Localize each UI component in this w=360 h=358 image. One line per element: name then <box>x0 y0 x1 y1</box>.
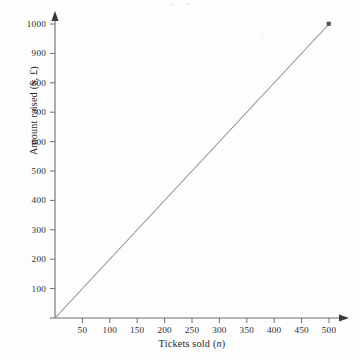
y-axis-title: Amount raised ($, £) <box>28 31 39 191</box>
y-tick-label: 100 <box>0 284 46 294</box>
data-point-marker <box>327 22 331 26</box>
x-tick-label: 50 <box>78 325 88 335</box>
chart-page: 1000 900 800 700 600 500 400 300 200 100… <box>0 0 360 358</box>
y-tick-label: 1000 <box>0 19 46 29</box>
y-axis-arrow-icon <box>51 11 58 21</box>
x-axis-title: Tickets sold (n) <box>55 338 329 349</box>
y-axis-ticks <box>50 24 55 318</box>
y-tick-label: 800 <box>0 78 46 88</box>
y-tick-label: 400 <box>0 195 46 205</box>
chart-plot-area <box>0 0 360 358</box>
x-tick-label: 350 <box>240 325 254 335</box>
x-tick-label: 400 <box>267 325 281 335</box>
x-axis-title-text: Tickets sold ( <box>159 338 217 349</box>
y-tick-label: 900 <box>0 48 46 58</box>
y-tick-label: 700 <box>0 107 46 117</box>
x-tick-label: 300 <box>212 325 226 335</box>
data-series-line <box>55 24 329 318</box>
y-tick-label: 500 <box>0 166 46 176</box>
x-tick-label: 100 <box>103 325 117 335</box>
x-tick-label: 200 <box>157 325 171 335</box>
x-axis-ticks <box>82 318 329 323</box>
x-tick-label: 250 <box>185 325 199 335</box>
x-axis-title-tail: ) <box>222 338 226 349</box>
x-axis-arrow-icon <box>339 314 349 321</box>
x-tick-label: 150 <box>130 325 144 335</box>
y-tick-label: 300 <box>0 225 46 235</box>
y-tick-label: 200 <box>0 254 46 264</box>
y-tick-label: 600 <box>0 137 46 147</box>
x-tick-label: 450 <box>294 325 308 335</box>
x-tick-label: 500 <box>322 325 336 335</box>
